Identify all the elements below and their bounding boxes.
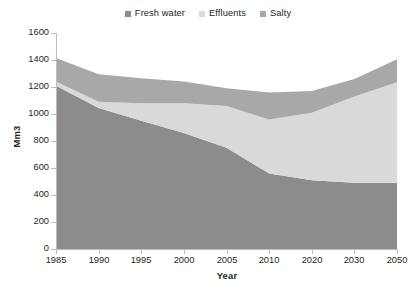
x-tick-label: 2010 <box>248 256 290 265</box>
y-axis-line <box>56 33 57 250</box>
x-tick-mark <box>99 250 100 254</box>
x-tick-mark <box>56 250 57 254</box>
y-tick-mark <box>51 60 56 61</box>
x-tick-mark <box>141 250 142 254</box>
x-tick-label: 2005 <box>206 256 248 265</box>
y-tick-label: 1400 <box>3 55 49 64</box>
x-tick-label: 1985 <box>35 256 77 265</box>
stacked-area-chart: Fresh water Effluents Salty 020040060080… <box>0 0 416 289</box>
y-tick-mark <box>51 141 56 142</box>
y-tick-label: 1600 <box>3 28 49 37</box>
x-tick-label: 1995 <box>120 256 162 265</box>
y-tick-mark <box>51 195 56 196</box>
y-tick-label: 400 <box>3 190 49 199</box>
y-tick-mark <box>51 87 56 88</box>
legend-swatch-effluents <box>199 11 205 17</box>
legend-label-effluents: Effluents <box>209 9 246 18</box>
legend-swatch-salty <box>260 11 266 17</box>
chart-legend: Fresh water Effluents Salty <box>0 9 416 18</box>
y-tick-mark <box>51 33 56 34</box>
legend-item-salty[interactable]: Salty <box>260 9 291 18</box>
x-tick-mark <box>184 250 185 254</box>
x-tick-label: 2020 <box>291 256 333 265</box>
y-tick-label: 200 <box>3 217 49 226</box>
x-tick-label: 1990 <box>78 256 120 265</box>
y-tick-mark <box>51 114 56 115</box>
x-axis-title: Year <box>56 270 398 281</box>
y-tick-label: 1200 <box>3 82 49 91</box>
legend-swatch-fresh-water <box>125 11 131 17</box>
y-axis-title: Mm3 <box>11 107 22 167</box>
x-tick-mark <box>354 250 355 254</box>
legend-label-salty: Salty <box>270 9 291 18</box>
y-tick-label: 0 <box>3 244 49 253</box>
legend-item-effluents[interactable]: Effluents <box>199 9 246 18</box>
y-tick-mark <box>51 168 56 169</box>
x-tick-mark <box>227 250 228 254</box>
x-tick-mark <box>397 250 398 254</box>
x-tick-label: 2050 <box>376 256 416 265</box>
x-tick-mark <box>269 250 270 254</box>
x-tick-label: 2000 <box>163 256 205 265</box>
x-tick-label: 2030 <box>333 256 375 265</box>
x-tick-mark <box>312 250 313 254</box>
legend-item-fresh-water[interactable]: Fresh water <box>125 9 185 18</box>
y-tick-mark <box>51 222 56 223</box>
legend-label-fresh-water: Fresh water <box>135 9 185 18</box>
plot-area <box>56 33 397 249</box>
plot-svg <box>56 33 397 249</box>
